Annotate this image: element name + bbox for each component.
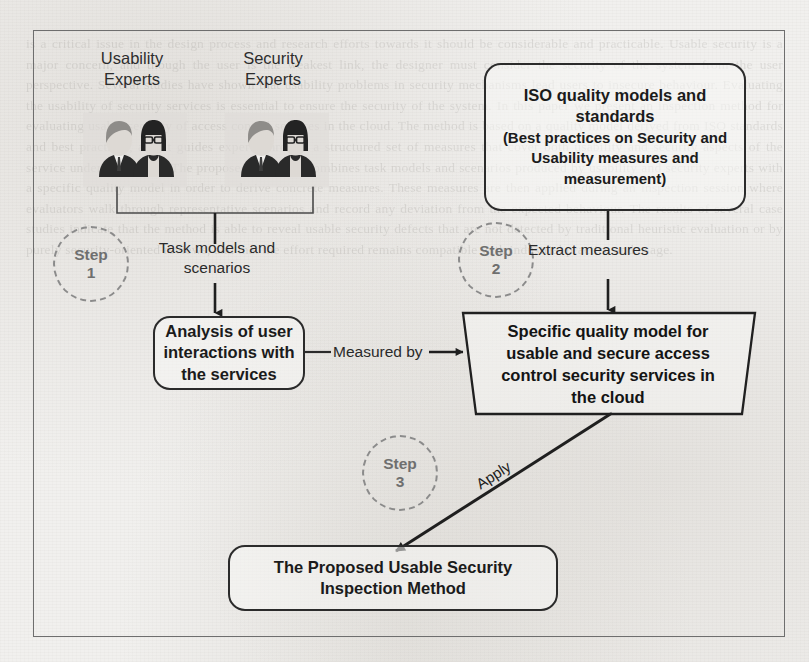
security-experts-people-icon: [225, 113, 329, 187]
step-3-number: 3: [396, 473, 405, 491]
proposed-usable-security-inspection-method-box: The Proposed Usable Security Inspection …: [228, 545, 558, 611]
diagram-page: is a critical issue in the design proces…: [0, 0, 809, 662]
measured-by-label: Measured by: [333, 342, 433, 362]
step-1-number: 1: [87, 264, 96, 282]
task-models-label-line2: scenarios: [131, 258, 303, 278]
analysis-line2: interactions with: [163, 342, 294, 364]
analysis-of-user-interactions-box: Analysis of user interactions with the s…: [153, 316, 305, 390]
iso-title-line2: standards: [503, 106, 727, 128]
security-experts-label-line1: Security: [213, 48, 333, 69]
man-figure-icon: [241, 121, 282, 177]
iso-title-line1: ISO quality models and: [503, 85, 727, 107]
specific-quality-model-text: Specific quality model for usable and se…: [468, 320, 748, 408]
extract-measures-label: Extract measures: [528, 240, 668, 260]
woman-with-glasses-icon: [275, 120, 316, 177]
proposed-method-line2: Inspection Method: [274, 578, 512, 600]
quality-model-line4: the cloud: [468, 386, 748, 408]
step-3-badge: Step 3: [362, 435, 438, 511]
two-people-icon: [83, 113, 187, 187]
step-1-word: Step: [74, 246, 108, 264]
proposed-method-line1: The Proposed Usable Security: [274, 557, 512, 579]
iso-sub-line2: Usability measures and: [503, 148, 727, 169]
quality-model-line1: Specific quality model for: [468, 320, 748, 342]
usability-experts-label-line2: Experts: [72, 69, 192, 90]
step-1-badge: Step 1: [53, 226, 129, 302]
task-models-label-line1: Task models and: [131, 238, 303, 258]
iso-quality-models-box: ISO quality models and standards (Best p…: [484, 63, 746, 211]
task-models-and-scenarios-label: Task models and scenarios: [131, 238, 303, 278]
woman-with-glasses-icon: [133, 120, 174, 177]
step-3-word: Step: [383, 455, 417, 473]
security-experts-label-line2: Experts: [213, 69, 333, 90]
usability-experts-label: Usability Experts: [72, 48, 192, 90]
usability-experts-label-line1: Usability: [72, 48, 192, 69]
iso-sub-line3: measurement): [503, 169, 727, 190]
usability-experts-people-icon: [83, 113, 187, 187]
step-2-word: Step: [479, 242, 513, 260]
two-people-icon: [225, 113, 329, 187]
man-figure-icon: [99, 121, 140, 177]
step-2-number: 2: [492, 260, 501, 278]
security-experts-label: Security Experts: [213, 48, 333, 90]
analysis-line1: Analysis of user: [163, 321, 294, 343]
iso-sub-line1: (Best practices on Security and: [503, 128, 727, 149]
quality-model-line2: usable and secure access: [468, 342, 748, 364]
quality-model-line3: control security services in: [468, 364, 748, 386]
analysis-line3: the services: [163, 364, 294, 386]
step-2-badge: Step 2: [458, 222, 534, 298]
